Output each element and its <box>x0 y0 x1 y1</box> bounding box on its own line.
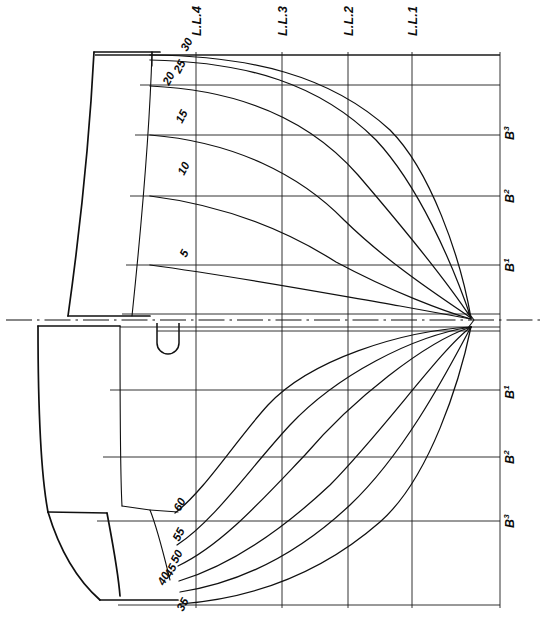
station-label-5: 5 <box>177 247 191 259</box>
lower-chine-right <box>107 513 120 596</box>
lower-outer-station-line <box>38 326 48 512</box>
buttock-sup-u3: 3 <box>502 126 511 131</box>
diagonal-curve-10 <box>150 196 471 319</box>
svg-text:B3: B3 <box>502 514 517 528</box>
upper-body-plan <box>68 52 160 316</box>
lower-body-plan <box>38 326 178 600</box>
upper-diagonal-curves <box>150 55 471 319</box>
buttock-base-u1: B <box>503 263 517 272</box>
waterline-label-ll4: L.L.4 <box>190 6 204 36</box>
buttock-label-upper-b2: B2 <box>502 189 517 203</box>
svg-text:B1: B1 <box>502 258 517 272</box>
buttock-base-l1: B <box>503 390 517 399</box>
buttock-base-u3: B <box>503 131 517 140</box>
station-label-10: 10 <box>175 159 192 177</box>
lower-inner-station-line <box>120 326 122 506</box>
svg-text:B3: B3 <box>502 126 517 140</box>
station-label-50: 50 <box>168 547 185 565</box>
station-label-30: 30 <box>178 35 195 53</box>
svg-text:B2: B2 <box>502 189 517 203</box>
lines-plan-drawing: L.L.4 L.L.3 L.L.2 L.L.1 B3 B2 B1 B1 <box>0 0 547 635</box>
buttock-sup-u2: 2 <box>502 189 511 195</box>
buttock-label-lower-b1: B1 <box>502 385 517 399</box>
buttock-label-lower-b3: B3 <box>502 514 517 528</box>
lower-inner-chine <box>122 506 170 580</box>
station-label-35: 35 <box>174 595 191 613</box>
buttock-base-u2: B <box>503 194 517 203</box>
diagonal-curve-20 <box>150 86 471 318</box>
lower-chine-top-left <box>48 512 107 513</box>
diagonal-curve-50 <box>178 327 471 566</box>
waterline-label-ll3: L.L.3 <box>276 6 290 36</box>
waterline-label-ll1: L.L.1 <box>406 6 420 36</box>
lower-diagonal-curves <box>175 327 471 604</box>
waterline-label-ll2: L.L.2 <box>342 6 356 36</box>
upper-outer-station-line <box>68 52 94 316</box>
keel-notch-group <box>157 323 500 354</box>
station-label-60: 60 <box>171 495 188 513</box>
hull-lines-plan-svg: L.L.4 L.L.3 L.L.2 L.L.1 B3 B2 B1 B1 <box>0 0 547 635</box>
diagonal-curve-25 <box>150 60 471 318</box>
station-label-15: 15 <box>173 107 190 125</box>
diagonal-curve-30 <box>150 55 471 318</box>
station-label-25: 25 <box>171 57 188 76</box>
svg-text:B1: B1 <box>502 385 517 399</box>
buttock-label-lower-b2: B2 <box>502 450 517 464</box>
upper-inner-station-line <box>132 52 152 316</box>
diagonal-curve-60 <box>175 327 471 513</box>
buttock-sup-l3: 3 <box>502 514 511 519</box>
lower-outer-lower-edge <box>48 512 100 600</box>
buttock-label-upper-b3: B3 <box>502 126 517 140</box>
lower-inner-chine-top <box>150 510 178 512</box>
svg-text:B2: B2 <box>502 450 517 464</box>
buttock-base-l3: B <box>503 519 517 528</box>
buttock-base-l2: B <box>503 455 517 464</box>
label-layer: L.L.4 L.L.3 L.L.2 L.L.1 B3 B2 B1 B1 <box>155 6 517 613</box>
skeg-notch-icon <box>157 323 179 354</box>
buttock-label-upper-b1: B1 <box>502 258 517 272</box>
diagonal-curve-55 <box>177 327 471 545</box>
buttock-sup-l1: 1 <box>502 385 511 390</box>
buttock-sup-l2: 2 <box>502 450 511 456</box>
buttock-sup-u1: 1 <box>502 258 511 263</box>
diagonal-curve-5 <box>150 265 471 319</box>
